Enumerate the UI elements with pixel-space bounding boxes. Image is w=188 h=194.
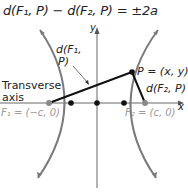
x-axis-label: x (178, 101, 184, 112)
point-p-dot (129, 69, 135, 75)
equation-label: d(F₁, P) − d(F₂, P) = ±2a (3, 3, 158, 18)
origin-dot (94, 100, 100, 106)
point-p-label: P = (x, y) (137, 65, 188, 78)
transverse-axis-label-line2: axis (2, 92, 61, 104)
left-branch-top-arrow-icon (40, 30, 45, 35)
distance-f1-label: d(F₁, P) (56, 44, 82, 68)
vertex-right-dot (121, 100, 127, 106)
transverse-axis-label: Transverse axis (2, 80, 61, 104)
distance-f1-label-line2: P) (56, 56, 82, 68)
y-axis-label: y (90, 22, 96, 33)
distance-f2-label: d(F₂, P) (146, 82, 186, 95)
focus-f1-label: F₁ = (−c, 0) (1, 107, 60, 118)
focus-f2-dot (142, 100, 148, 106)
vertex-left-dot (68, 100, 74, 106)
leader-line-d1 (73, 66, 88, 83)
focus-f2-label: F₂ = (c, 0) (125, 107, 176, 118)
